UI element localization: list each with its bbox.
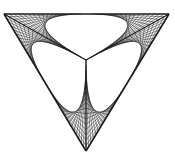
string-line	[14, 14, 77, 19]
string-line	[50, 91, 86, 141]
string-line	[14, 19, 41, 74]
string-line	[28, 33, 38, 54]
string-line	[26, 36, 43, 51]
string-line	[135, 33, 145, 54]
string-line	[11, 26, 71, 52]
string-line	[101, 26, 162, 52]
string-line	[132, 19, 159, 74]
string-line	[86, 91, 123, 141]
string-line	[130, 36, 147, 51]
string-art-triangle	[0, 0, 175, 152]
string-line	[96, 14, 159, 19]
